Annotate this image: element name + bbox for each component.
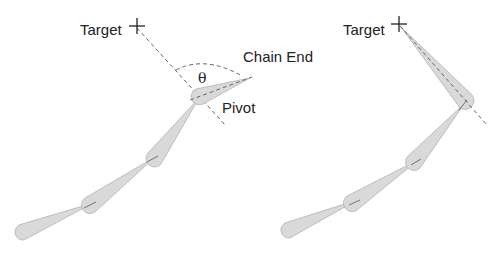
angle-arc — [176, 64, 242, 76]
bone-2 — [343, 160, 418, 212]
ik-diagram: Target Chain End Pivot θ Target — [0, 0, 494, 254]
bone-3 — [406, 104, 464, 170]
bone-2 — [81, 157, 155, 214]
chain-end-label: Chain End — [243, 48, 313, 65]
bone-3 — [146, 98, 199, 167]
left-panel: Target Chain End Pivot θ — [15, 18, 313, 240]
pivot-label: Pivot — [222, 99, 256, 116]
target-crosshair-icon — [391, 16, 407, 32]
target-label: Target — [80, 21, 123, 38]
angle-label: θ — [198, 70, 206, 86]
target-crosshair-icon — [129, 18, 145, 34]
target-label: Target — [343, 21, 386, 38]
bone-1 — [15, 203, 93, 240]
target-pivot-line — [137, 28, 226, 126]
